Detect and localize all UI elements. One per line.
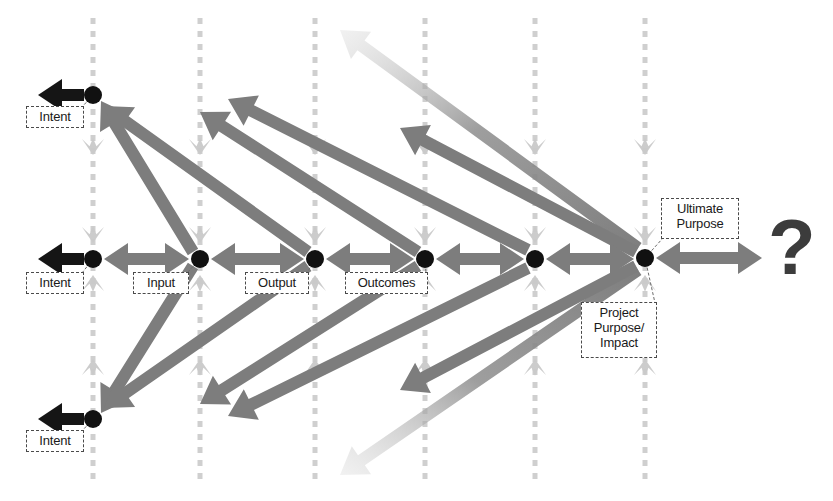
- arrow-into-intent-middle: [38, 243, 84, 275]
- arrow-ultimate-up-mid: [400, 125, 639, 257]
- arrow-ultimate-down-far: [340, 265, 641, 475]
- label-ultimate-purpose: Ultimate Purpose: [661, 198, 739, 239]
- arrow-input-output: [211, 243, 304, 275]
- arrow-ultimate-up-far: [340, 30, 642, 253]
- node-intent-bottom[interactable]: [84, 410, 102, 428]
- node-outcomes[interactable]: [416, 250, 434, 268]
- node-intent-top[interactable]: [84, 86, 102, 104]
- node-input[interactable]: [191, 250, 209, 268]
- label-outcomes: Outcomes: [345, 272, 428, 294]
- label-output: Output: [245, 272, 309, 294]
- arrow-intent-input: [104, 243, 189, 275]
- label-project-purpose-impact: Project Purpose/ Impact: [581, 302, 657, 358]
- label-input: Input: [133, 272, 189, 294]
- node-intent-middle[interactable]: [84, 250, 102, 268]
- arrow-ultimate-to-question: [656, 242, 762, 274]
- node-ultimate-purpose[interactable]: [636, 249, 654, 267]
- label-intent-middle: Intent: [26, 272, 84, 294]
- diagram-canvas: IntentIntentIntentInputOutputOutcomesPro…: [0, 0, 833, 501]
- label-intent-top: Intent: [26, 106, 84, 128]
- question-mark: ?: [768, 208, 816, 286]
- node-project-purpose[interactable]: [526, 250, 544, 268]
- diagram-svg: [0, 0, 833, 501]
- label-intent-bottom: Intent: [26, 430, 84, 452]
- node-output[interactable]: [306, 250, 324, 268]
